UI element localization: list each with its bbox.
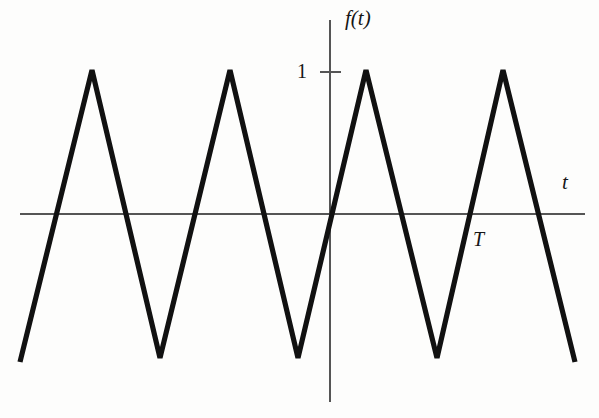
y-axis-label: f(t) — [345, 8, 371, 29]
period-marker-label: T — [473, 229, 484, 249]
waveform-curve — [20, 70, 575, 362]
triangular-waveform-figure: f(t) t T 1 — [0, 0, 599, 418]
x-axis-label: t — [562, 172, 568, 193]
amplitude-tick-label: 1 — [297, 61, 307, 81]
